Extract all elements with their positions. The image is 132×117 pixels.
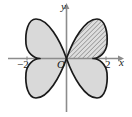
x-tick-label-pos2: 2: [105, 59, 111, 70]
math-figure: y x O −2 2: [0, 0, 132, 117]
y-axis-label: y: [61, 1, 66, 12]
x-tick-label-neg2: −2: [17, 59, 29, 70]
origin-label: O: [57, 59, 65, 70]
x-axis-label: x: [119, 57, 124, 68]
